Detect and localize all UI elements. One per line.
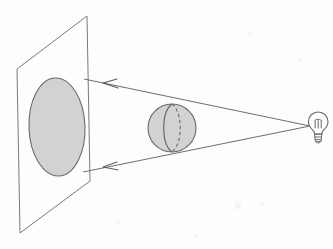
sphere bbox=[148, 104, 196, 152]
figure-root bbox=[0, 0, 333, 249]
shadow-projection-diagram bbox=[0, 0, 333, 249]
